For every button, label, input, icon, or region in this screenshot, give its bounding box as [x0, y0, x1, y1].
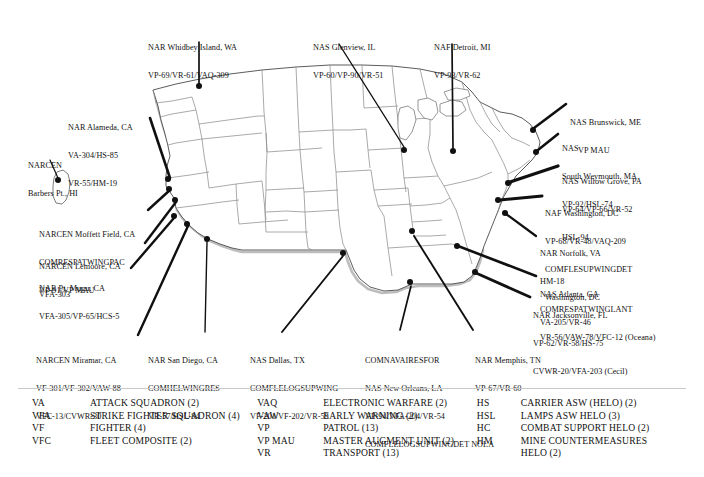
- callout-line: NAS Glenview, IL: [313, 43, 383, 52]
- leader-weymouth: [538, 134, 558, 150]
- leader-ptmugu: [131, 218, 174, 268]
- legend-row: HSL LAMPS ASW HELO (3): [477, 410, 704, 423]
- callout-line: NAS Willow Grove, PA: [562, 177, 642, 186]
- legend-row: VA ATTACK SQUADRON (2): [32, 397, 257, 410]
- leader-dallas: [282, 256, 343, 332]
- callout-line: VP-60/VP-90/VR-51: [313, 71, 383, 80]
- dot-jacksonville: [472, 269, 478, 275]
- callout-nar-whidbey-island-wa: NAR Whidbey Island, WA VP-69/VR-61/VAQ-3…: [148, 24, 237, 99]
- legend-abbr: VAQ: [257, 397, 323, 410]
- legend-row: HS CARRIER ASW (HELO) (2): [477, 397, 704, 410]
- legend-desc: MINE COUNTERMEASURES HELO (2): [521, 435, 647, 460]
- dot-lemoore: [172, 197, 178, 203]
- dot-alameda: [165, 176, 171, 182]
- legend-desc: LAMPS ASW HELO (3): [521, 410, 620, 423]
- legend-column-fixed-wing-attack: VA ATTACK SQUADRON (2) VFA STRIKE FIGHTE…: [0, 397, 257, 460]
- callout-naf-detroit-mi: NAF Detroit, MI VP-93/VR-62: [434, 24, 490, 99]
- dot-new-orleans: [407, 279, 413, 285]
- legend-abbr: VAW: [257, 410, 323, 423]
- legend-desc: CARRIER ASW (HELO) (2): [521, 397, 637, 410]
- legend-abbr: VP MAU: [257, 435, 323, 448]
- legend-abbr: HM: [477, 435, 521, 460]
- callout-line: NAR Jacksonville, FL: [533, 311, 627, 320]
- legend-desc: ATTACK SQUADRON (2): [90, 397, 199, 410]
- legend-row: VFA STRIKE FIGHTER SQUADRON (4): [32, 410, 257, 423]
- legend-abbr: VF: [32, 422, 90, 435]
- legend-row: VFC FLEET COMPOSITE (2): [32, 435, 257, 448]
- dot-memphis: [409, 228, 415, 234]
- leader-sandiego: [205, 242, 207, 332]
- callout-nar-pt-mugu-ca: NAR Pt. Mugu, CA VFA-305/VP-65/HCS-5: [39, 265, 119, 340]
- legend-row: VAQ ELECTRONIC WARFARE (2): [257, 397, 477, 410]
- legend-desc: COMBAT SUPPORT HELO (2): [521, 422, 650, 435]
- leader-moffett: [148, 190, 170, 210]
- legend-abbr: VR: [257, 447, 323, 460]
- callout-line: NAS: [562, 144, 637, 153]
- legend-desc: EARLY WARNING (2): [323, 410, 417, 423]
- legend-divider: [18, 388, 686, 389]
- legend-column-helo: HS CARRIER ASW (HELO) (2) HSL LAMPS ASW …: [477, 397, 704, 460]
- dot-moffett-field: [166, 186, 172, 192]
- callout-nas-glenview-il: NAS Glenview, IL VP-60/VP-90/VR-51: [313, 24, 383, 99]
- legend-row: VP MAU MASTER AUGMENT UNIT (2): [257, 435, 477, 448]
- callout-line: NAF Detroit, MI: [434, 43, 490, 52]
- callout-line: CVWR-20/VFA-203 (Cecil): [533, 367, 627, 376]
- legend-row: VAW EARLY WARNING (2): [257, 410, 477, 423]
- dot-pt-mugu: [171, 213, 177, 219]
- dot-willow-grove: [505, 180, 511, 186]
- dot-san-diego: [204, 236, 210, 242]
- legend-abbr: VFC: [32, 435, 90, 448]
- dot-washington-dc: [495, 197, 501, 203]
- legend-abbr: HS: [477, 397, 521, 410]
- leader-jacksonville: [476, 273, 530, 297]
- legend-abbr: VFA: [32, 410, 90, 423]
- callout-line: VP-93/VR-62: [434, 71, 490, 80]
- dot-atlanta: [454, 243, 460, 249]
- leader-norfolk: [506, 214, 536, 236]
- dot-brunswick: [530, 127, 536, 133]
- callout-line: NAR Whidbey Island, WA: [148, 43, 237, 52]
- callout-line: VP-62/VR-58/HS-75: [533, 339, 627, 348]
- dot-norfolk: [502, 210, 508, 216]
- callout-line: NAF Washington, DC: [545, 209, 632, 218]
- legend-abbr: VP: [257, 422, 323, 435]
- legend-row: HC COMBAT SUPPORT HELO (2): [477, 422, 704, 435]
- callout-narcen-barbers-pt-hi: NARCEN Barbers Pt., HI: [28, 142, 78, 217]
- leader-washington: [500, 196, 542, 200]
- callout-line: NAR San Diego, CA: [148, 356, 220, 365]
- legend-abbr: VA: [32, 397, 90, 410]
- legend-row: VF FIGHTER (4): [32, 422, 257, 435]
- legend-abbr: HC: [477, 422, 521, 435]
- legend-desc: MASTER AUGMENT UNIT (2): [323, 435, 454, 448]
- legend-row: VR TRANSPORT (13): [257, 447, 477, 460]
- callout-line: NARCEN Miramar, CA: [36, 356, 121, 365]
- callout-line: VP-69/VR-61/VAQ-309: [148, 71, 237, 80]
- legend-desc: PATROL (13): [323, 422, 378, 435]
- callout-line: NAR Alameda, CA: [68, 123, 133, 132]
- callout-line: NAR Pt. Mugu, CA: [39, 284, 119, 293]
- us-reserve-air-stations-map: NAR Whidbey Island, WA VP-69/VR-61/VAQ-3…: [0, 0, 704, 380]
- legend-desc: FLEET COMPOSITE (2): [90, 435, 192, 448]
- dot-dallas: [340, 250, 346, 256]
- callout-line: NARCEN: [28, 161, 78, 170]
- callout-line: NAR Norfolk, VA: [540, 249, 655, 258]
- dot-glenview: [401, 147, 407, 153]
- squadron-type-legend: VA ATTACK SQUADRON (2) VFA STRIKE FIGHTE…: [0, 388, 704, 477]
- callout-line: NARCEN Moffett Field, CA: [39, 230, 135, 239]
- legend-desc: TRANSPORT (13): [323, 447, 399, 460]
- callout-nar-jacksonville-fl: NAR Jacksonville, FL VP-62/VR-58/HS-75 C…: [533, 292, 627, 395]
- callout-line: NAR Memphis, TN: [475, 356, 541, 365]
- legend-abbr: HSL: [477, 410, 521, 423]
- figure-root: NAR Whidbey Island, WA VP-69/VR-61/VAQ-3…: [0, 0, 704, 477]
- legend-desc: ELECTRONIC WARFARE (2): [323, 397, 447, 410]
- legend-row: HM MINE COUNTERMEASURES HELO (2): [477, 435, 704, 460]
- legend-desc: FIGHTER (4): [90, 422, 146, 435]
- leader-neworleans: [400, 286, 411, 330]
- legend-column-support: VAQ ELECTRONIC WARFARE (2) VAW EARLY WAR…: [257, 397, 477, 460]
- dot-miramar: [184, 221, 190, 227]
- dot-detroit: [450, 148, 456, 154]
- legend-desc: STRIKE FIGHTER SQUADRON (4): [90, 410, 240, 423]
- legend-row: VP PATROL (13): [257, 422, 477, 435]
- callout-line: NAS Dallas, TX: [250, 356, 338, 365]
- callout-line: VFA-305/VP-65/HCS-5: [39, 312, 119, 321]
